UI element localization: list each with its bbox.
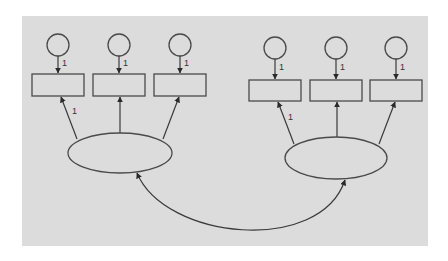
loading-label-f1-x1: 1 (72, 106, 77, 116)
loading-label-f2-x4: 1 (288, 112, 293, 122)
error-path-label-e2: 1 (123, 58, 128, 68)
error-path-label-e3: 1 (184, 58, 189, 68)
error-path-label-e5: 1 (340, 62, 345, 72)
error-path-label-e4: 1 (279, 62, 284, 72)
error-path-label-e6: 1 (400, 62, 405, 72)
error-path-label-e1: 1 (62, 58, 67, 68)
diagram-canvas (22, 16, 428, 246)
sem-path-diagram: 1 1 1 1 1 1 1 1 (0, 0, 448, 261)
